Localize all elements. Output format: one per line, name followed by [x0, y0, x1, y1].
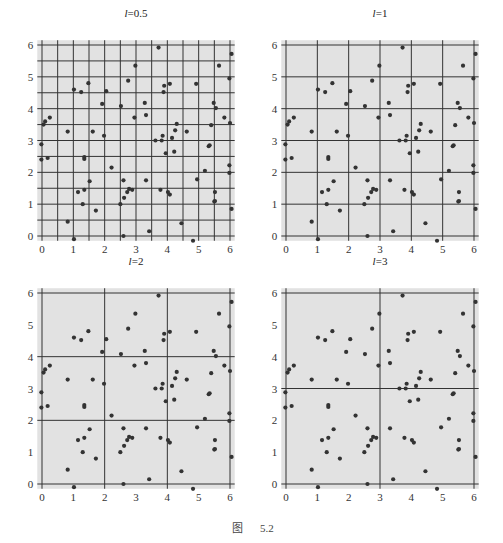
- data-point: [143, 101, 147, 105]
- data-point: [438, 330, 442, 334]
- data-point: [147, 477, 151, 481]
- data-point: [412, 193, 416, 197]
- data-point: [168, 82, 172, 86]
- y-tick-label: 4: [28, 351, 34, 363]
- data-point: [185, 377, 189, 381]
- data-point: [456, 349, 460, 353]
- data-point: [195, 177, 199, 181]
- data-point: [376, 363, 380, 367]
- x-tick-label: 6: [227, 491, 233, 503]
- data-point: [208, 391, 212, 395]
- y-tick-label: 1: [28, 198, 34, 210]
- data-point: [471, 324, 475, 328]
- data-point: [423, 469, 427, 473]
- data-point: [156, 293, 160, 297]
- x-tick-label: 6: [227, 243, 233, 255]
- data-point: [405, 90, 409, 94]
- y-tick-label: 3: [272, 383, 278, 395]
- data-point: [310, 129, 314, 133]
- data-point: [283, 158, 287, 162]
- data-point: [91, 377, 95, 381]
- data-point: [447, 417, 451, 421]
- y-tick-label: 1: [272, 446, 278, 458]
- y-tick-label: 5: [28, 319, 34, 331]
- data-point: [133, 64, 137, 68]
- data-point: [172, 150, 176, 154]
- data-point: [438, 82, 442, 86]
- x-tick-label: 0: [39, 243, 45, 255]
- y-tick-label: 0: [28, 230, 34, 242]
- data-point: [126, 79, 130, 83]
- data-point: [222, 363, 226, 367]
- data-point: [153, 138, 157, 142]
- x-tick-label: 0: [283, 491, 289, 503]
- data-point: [353, 165, 357, 169]
- data-point: [160, 138, 164, 142]
- y-tick-label: 2: [272, 166, 278, 178]
- data-point: [104, 89, 108, 93]
- panel-title: l=3: [373, 255, 388, 267]
- data-point: [435, 239, 439, 243]
- panel-title: l=0.5: [124, 7, 148, 19]
- data-point: [456, 101, 460, 105]
- data-point: [429, 377, 433, 381]
- data-point: [362, 450, 366, 454]
- data-point: [39, 390, 43, 394]
- x-tick-label: 1: [71, 491, 77, 503]
- data-point: [405, 134, 409, 138]
- data-point: [48, 115, 52, 119]
- x-tick-label: 5: [196, 243, 202, 255]
- data-point: [473, 207, 477, 211]
- data-point: [335, 129, 339, 133]
- data-point: [144, 113, 148, 117]
- data-point: [168, 193, 172, 197]
- data-point: [203, 169, 207, 173]
- data-point: [363, 352, 367, 356]
- data-point: [175, 122, 179, 126]
- x-tick-label: 2: [346, 243, 352, 255]
- data-point: [332, 427, 336, 431]
- x-tick-label: 2: [102, 243, 108, 255]
- data-point: [158, 436, 162, 440]
- caption-number: 5.2: [260, 522, 274, 534]
- data-point: [194, 82, 198, 86]
- data-point: [76, 438, 80, 442]
- y-tick-label: 5: [272, 319, 278, 331]
- data-point: [173, 376, 177, 380]
- x-tick-label: 2: [346, 491, 352, 503]
- data-point: [473, 455, 477, 459]
- data-point: [388, 178, 392, 182]
- data-point: [458, 354, 462, 358]
- data-point: [292, 115, 296, 119]
- data-point: [102, 134, 106, 138]
- data-point: [374, 436, 378, 440]
- data-point: [391, 229, 395, 233]
- x-tick-label: 3: [133, 491, 139, 503]
- data-point: [118, 202, 122, 206]
- data-point: [72, 87, 76, 91]
- data-point: [285, 370, 289, 374]
- data-point: [471, 419, 475, 423]
- data-point: [162, 84, 166, 88]
- data-point: [121, 426, 125, 430]
- y-tick-label: 6: [28, 39, 34, 51]
- panel-title-value: 1: [382, 7, 388, 19]
- data-point: [283, 406, 287, 410]
- data-point: [388, 113, 392, 117]
- data-point: [72, 237, 76, 241]
- data-point: [453, 123, 457, 127]
- x-tick-label: 5: [440, 243, 446, 255]
- data-point: [227, 171, 231, 175]
- data-point: [466, 115, 470, 119]
- data-point: [121, 178, 125, 182]
- data-point: [66, 220, 70, 224]
- data-point: [81, 450, 85, 454]
- data-point: [161, 134, 165, 138]
- data-point: [227, 324, 231, 328]
- data-point: [179, 221, 183, 225]
- data-point: [416, 398, 420, 402]
- data-point: [423, 221, 427, 225]
- data-point: [452, 391, 456, 395]
- y-tick-label: 1: [28, 446, 34, 458]
- y-tick-label: 5: [28, 71, 34, 83]
